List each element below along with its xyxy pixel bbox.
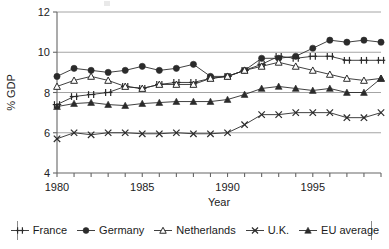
- plus-marker: [377, 57, 386, 64]
- chart-figure: 46810121980198519901995Year% GDP FranceG…: [0, 0, 389, 249]
- y-tick-label: 4: [44, 167, 50, 179]
- legend-label: Netherlands: [176, 225, 235, 236]
- plus-marker: [360, 57, 369, 64]
- x-marker: [245, 225, 265, 236]
- filled-circle-marker: [122, 67, 128, 73]
- x-marker: [378, 109, 384, 115]
- x-tick-label: 1985: [130, 181, 154, 193]
- x-tick-label: 1990: [215, 181, 239, 193]
- legend-entry-eu-average[interactable]: EU average: [298, 225, 379, 236]
- legend-label: EU average: [321, 225, 379, 236]
- plus-marker: [326, 53, 335, 60]
- filled-circle-marker: [76, 225, 96, 236]
- filled-circle-marker: [361, 37, 367, 43]
- series-germany: [54, 37, 384, 79]
- filled-circle-marker: [310, 45, 316, 51]
- filled-circle-marker: [83, 228, 89, 234]
- y-tick-label: 12: [38, 6, 50, 18]
- legend-label: France: [33, 225, 67, 236]
- plus-marker: [343, 57, 352, 64]
- filled-triangle-marker: [298, 225, 318, 236]
- open-triangle-marker: [153, 225, 173, 236]
- legend-label: Germany: [99, 225, 144, 236]
- open-triangle-marker: [88, 73, 95, 79]
- filled-triangle-marker: [326, 85, 333, 91]
- x-axis: 1980198519901995: [45, 173, 381, 193]
- plus-marker: [309, 53, 318, 60]
- series-france: [53, 53, 386, 108]
- filled-circle-marker: [139, 63, 145, 69]
- plus-marker: [70, 93, 79, 100]
- filled-circle-marker: [54, 73, 60, 79]
- filled-circle-marker: [190, 61, 196, 67]
- filled-circle-marker: [71, 65, 77, 71]
- y-tick-label: 8: [44, 87, 50, 99]
- x-axis-title: Year: [208, 196, 231, 208]
- line-chart: 46810121980198519901995Year% GDP: [0, 0, 389, 249]
- y-tick-label: 6: [44, 127, 50, 139]
- legend-entry-france[interactable]: France: [10, 225, 67, 236]
- open-triangle-marker: [54, 83, 61, 89]
- y-axis: 4681012: [38, 6, 57, 179]
- chart-legend: FranceGermanyNetherlandsU.K.EU average: [17, 221, 372, 240]
- x-tick-label: 1995: [301, 181, 325, 193]
- filled-circle-marker: [105, 69, 111, 75]
- legend-entry-germany[interactable]: Germany: [76, 225, 144, 236]
- filled-circle-marker: [293, 53, 299, 59]
- legend-entry-u-k[interactable]: U.K.: [245, 225, 289, 236]
- filled-circle-marker: [378, 39, 384, 45]
- x-tick-label: 1980: [45, 181, 69, 193]
- series-line: [57, 56, 381, 104]
- plus-marker: [104, 89, 113, 96]
- filled-circle-marker: [173, 65, 179, 71]
- filled-circle-marker: [259, 55, 265, 61]
- y-tick-label: 10: [38, 46, 50, 58]
- filled-circle-marker: [327, 37, 333, 43]
- filled-triangle-marker: [275, 83, 282, 89]
- legend-entry-netherlands[interactable]: Netherlands: [153, 225, 235, 236]
- filled-circle-marker: [156, 67, 162, 73]
- filled-triangle-marker: [378, 75, 385, 81]
- plus-marker: [16, 227, 24, 233]
- y-axis-title: % GDP: [5, 74, 17, 111]
- legend-label: U.K.: [268, 225, 289, 236]
- series-netherlands: [54, 59, 385, 91]
- plus-marker: [10, 225, 30, 236]
- x-marker: [241, 122, 247, 128]
- filled-circle-marker: [344, 39, 350, 45]
- series-u-k: [54, 109, 384, 142]
